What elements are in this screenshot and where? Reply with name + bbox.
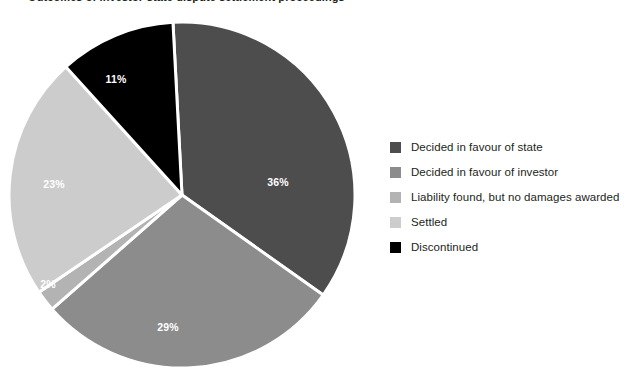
legend-item[interactable]: Decided in favour of investor	[390, 160, 640, 185]
legend-swatch-icon	[390, 167, 401, 178]
legend-item-label: Settled	[411, 216, 447, 229]
pie-svg: 36%29%2%23%11%	[0, 10, 376, 376]
legend-swatch-icon	[390, 217, 401, 228]
chart-legend: Decided in favour of state Decided in fa…	[390, 135, 640, 260]
legend-swatch-icon	[390, 192, 401, 203]
legend-item[interactable]: Liability found, but no damages awarded	[390, 185, 640, 210]
pie-slice-value-label: 36%	[267, 176, 289, 188]
legend-item-label: Liability found, but no damages awarded	[411, 191, 619, 204]
legend-item[interactable]: Settled	[390, 210, 640, 235]
pie-slices-group	[9, 22, 355, 368]
pie-chart-figure: Outcomes of investor-state dispute settl…	[0, 0, 642, 376]
legend-item-label: Decided in favour of investor	[411, 166, 558, 179]
pie-plot-area: 36%29%2%23%11%	[0, 10, 376, 376]
legend-item-label: Decided in favour of state	[411, 141, 543, 154]
chart-title: Outcomes of investor-state dispute settl…	[28, 0, 345, 3]
legend-item-label: Discontinued	[411, 241, 478, 254]
pie-slice-value-label: 11%	[105, 73, 126, 85]
legend-swatch-icon	[390, 242, 401, 253]
legend-item[interactable]: Decided in favour of state	[390, 135, 640, 160]
pie-slice-value-label: 2%	[40, 278, 56, 290]
legend-item[interactable]: Discontinued	[390, 235, 640, 260]
pie-slice-value-label: 29%	[157, 321, 179, 333]
pie-slice-value-label: 23%	[43, 178, 65, 190]
legend-swatch-icon	[390, 142, 401, 153]
